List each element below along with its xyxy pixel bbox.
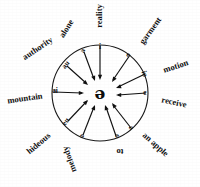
example-word-label: to [116,147,123,157]
spoke-i-reality: ireality [94,3,104,80]
schwa-reduction-diagram: irealityegarmentiomotionereceiveaan appl… [0,0,200,187]
example-word-label: alone [57,17,76,39]
example-word-label: reality [94,3,104,27]
spoke-e-receive: ereceive [116,88,188,110]
arrow-head-icon [98,75,102,80]
spoke-line [113,105,131,128]
arrow-head-icon [110,102,116,109]
arrow-head-icon [91,104,97,110]
vowel-letter-label: eu [60,116,72,127]
vowel-letter-label: e [143,88,147,97]
arrow-head-icon [79,91,84,95]
example-word-label: motion [162,57,190,75]
example-word-label: garment [137,15,163,46]
example-word-label: receive [161,94,188,109]
spoke-line [118,93,146,95]
spoke-a-alone: aalone [57,17,97,81]
vowel-letter-label: ai [52,86,58,95]
spoke-line [113,55,130,80]
spoke-o-melody: omelody [60,104,97,173]
example-word-label: hideous [24,130,53,156]
spoke-line [106,107,116,136]
example-word-label: an apple [141,130,171,158]
spoke-au-authority: auauthority [20,34,89,87]
spoke-line [54,92,82,93]
example-word-label: mountain [7,91,44,106]
diagram-canvas: irealityegarmentiomotionereceiveaan appl… [0,0,200,187]
center-schwa-symbol: ə [95,83,106,103]
example-word-label: authority [20,34,55,62]
spoke-o-to: oto [103,104,124,157]
spoke-line [68,101,87,121]
spoke-ai-mountain: aimountain [7,86,84,106]
arrow-head-icon [110,77,116,84]
spoke-io-motion: iomotion [115,57,189,90]
arrow-head-icon [116,93,121,97]
spoke-line [83,107,94,135]
vowel-letter-label: i [99,42,101,51]
arrow-head-icon [103,104,109,110]
spoke-eu-hideous: euhideous [24,99,89,157]
example-word-label: melody [60,144,79,173]
spoke-line [67,66,86,83]
arrow-head-icon [91,75,97,81]
vowel-letter-label: e [124,50,133,60]
spoke-line [84,52,94,79]
